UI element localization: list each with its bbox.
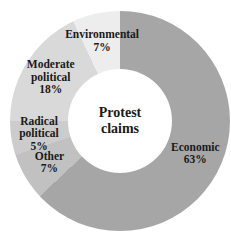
donut-hole: Protest claims [68,69,172,173]
protest-claims-donut-figure: Protest claims Economic 63%Other 7%Radic… [0,0,231,241]
chart-center-label: Protest claims [99,105,142,137]
